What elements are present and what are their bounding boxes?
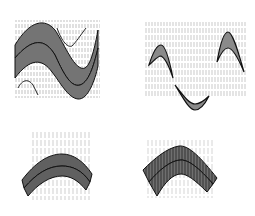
fold-panel-a (0, 0, 128, 108)
fold-panel-d (127, 108, 255, 216)
s-fold-illustration (0, 0, 128, 108)
fold-panel-b (127, 0, 255, 108)
fold-panel-c (0, 108, 128, 216)
chevron-antiform-illustration (127, 108, 255, 216)
isolated-hinges-illustration (127, 0, 255, 125)
rounded-antiform-illustration (0, 108, 128, 216)
